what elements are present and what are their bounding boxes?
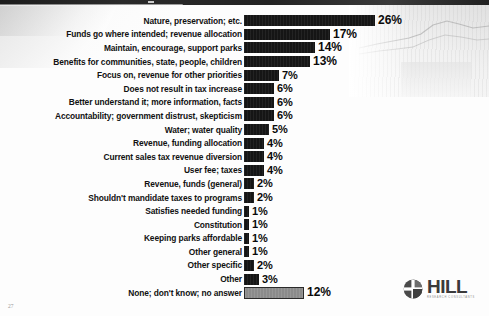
bar-category-label: Does not result in tax increase <box>0 84 244 94</box>
bar <box>244 56 310 67</box>
bar-category-label: Satisfies needed funding <box>0 206 244 216</box>
chart-row: Accountability; government distrust, ske… <box>0 109 489 123</box>
bar-value-label: 6% <box>277 97 293 108</box>
bar <box>244 165 264 176</box>
chart-row: Current sales tax revenue diversion4% <box>0 150 489 164</box>
bar-value-label: 17% <box>333 29 357 40</box>
bar <box>244 192 254 203</box>
bar-value-label: 14% <box>318 42 342 53</box>
chart-row: Keeping parks affordable1% <box>0 232 489 246</box>
bar <box>244 15 375 26</box>
bar-value-label: 2% <box>257 260 273 271</box>
bar-track: 13% <box>244 55 489 69</box>
bar-value-label: 4% <box>267 151 283 162</box>
chart-row: Nature, preservation; etc.26% <box>0 14 489 28</box>
bar-track: 14% <box>244 41 489 55</box>
bar-category-label: User fee; taxes <box>0 165 244 175</box>
bar <box>244 274 259 285</box>
bar-value-label: 1% <box>252 233 268 244</box>
bar-category-label: Benefits for communities, state, people,… <box>0 57 244 67</box>
bar-value-label: 12% <box>307 287 331 298</box>
bar-track: 17% <box>244 28 489 42</box>
bar-track: 1% <box>244 245 489 259</box>
bar-track: 2% <box>244 259 489 273</box>
bar <box>244 110 274 121</box>
bar <box>244 219 249 230</box>
bar-category-label: Funds go where intended; revenue allocat… <box>0 29 244 39</box>
chart-row: Other specific2% <box>0 259 489 273</box>
bar-track: 7% <box>244 68 489 82</box>
bar-category-label: None; don't know; no answer <box>0 288 244 298</box>
bar <box>244 287 304 299</box>
bar-track: 6% <box>244 109 489 123</box>
bar <box>244 29 330 40</box>
bar-track: 4% <box>244 164 489 178</box>
bar <box>244 97 274 108</box>
bar-category-label: Other specific <box>0 260 244 270</box>
bar <box>244 42 315 53</box>
bar-value-label: 1% <box>252 219 268 230</box>
chart-row: Does not result in tax increase6% <box>0 82 489 96</box>
chart-row: Satisfies needed funding1% <box>0 204 489 218</box>
bar-category-label: Other general <box>0 247 244 257</box>
chart-row: Maintain, encourage, support parks14% <box>0 41 489 55</box>
bar-category-label: Focus on, revenue for other priorities <box>0 70 244 80</box>
bar-track: 4% <box>244 136 489 150</box>
banner-highlight <box>148 1 154 3</box>
bar-track: 4% <box>244 150 489 164</box>
bar <box>244 260 254 271</box>
bar <box>244 70 279 81</box>
bar-category-label: Nature, preservation; etc. <box>0 16 244 26</box>
chart-row: Constitution1% <box>0 218 489 232</box>
bar <box>244 178 254 189</box>
chart-row: User fee; taxes4% <box>0 164 489 178</box>
hill-globe-cross-icon <box>402 278 424 300</box>
bar <box>244 83 274 94</box>
bar-track: 2% <box>244 177 489 191</box>
bar-value-label: 1% <box>252 246 268 257</box>
bar-category-label: Water; water quality <box>0 125 244 135</box>
bar <box>244 124 269 135</box>
chart-row: Other general1% <box>0 245 489 259</box>
bar-value-label: 6% <box>277 83 293 94</box>
bar-value-label: 2% <box>257 178 273 189</box>
bar-category-label: Accountability; government distrust, ske… <box>0 111 244 121</box>
bar-value-label: 2% <box>257 192 273 203</box>
bar <box>244 206 249 217</box>
bar-track: 6% <box>244 82 489 96</box>
bar-track: 2% <box>244 191 489 205</box>
bar-track: 5% <box>244 123 489 137</box>
chart-row: Revenue, funding allocation4% <box>0 136 489 150</box>
bar-track: 26% <box>244 14 489 28</box>
bar-track: 1% <box>244 204 489 218</box>
hill-logo-text: HILL RESEARCH CONSULTANTS <box>427 277 475 300</box>
chart-row: Better understand it; more information, … <box>0 96 489 110</box>
bar-value-label: 6% <box>277 110 293 121</box>
hill-logo: HILL RESEARCH CONSULTANTS <box>402 277 475 300</box>
bar-value-label: 4% <box>267 165 283 176</box>
bar <box>244 151 264 162</box>
chart-row: Water; water quality5% <box>0 123 489 137</box>
chart-row: Funds go where intended; revenue allocat… <box>0 28 489 42</box>
bar-category-label: Keeping parks affordable <box>0 233 244 243</box>
bar-category-label: Revenue, funding allocation <box>0 138 244 148</box>
bar-value-label: 7% <box>282 70 298 81</box>
chart-row: Shouldn't mandidate taxes to programs2% <box>0 191 489 205</box>
bar-value-label: 13% <box>313 56 337 67</box>
hill-tagline: RESEARCH CONSULTANTS <box>427 297 475 300</box>
bar <box>244 138 264 149</box>
chart-row: Benefits for communities, state, people,… <box>0 55 489 69</box>
bar-track: 1% <box>244 232 489 246</box>
bar-value-label: 5% <box>272 124 288 135</box>
bar-category-label: Constitution <box>0 220 244 230</box>
bar-value-label: 4% <box>267 138 283 149</box>
bar-value-label: 26% <box>378 15 402 26</box>
bar-track: 6% <box>244 96 489 110</box>
bar-track: 1% <box>244 218 489 232</box>
bar-category-label: Maintain, encourage, support parks <box>0 43 244 53</box>
bar-category-label: Current sales tax revenue diversion <box>0 152 244 162</box>
bar-category-label: Other <box>0 274 244 284</box>
bar-value-label: 1% <box>252 206 268 217</box>
chart-row: Revenue, funds (general)2% <box>0 177 489 191</box>
page-number: 27 <box>8 303 14 309</box>
